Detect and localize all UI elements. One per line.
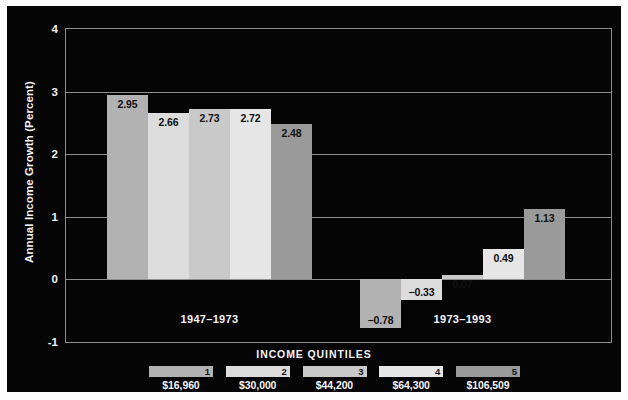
- bar-value-label: 2.66: [148, 116, 189, 128]
- bar-g1-q2: 2.66: [148, 113, 189, 280]
- legend-number: 5: [512, 367, 517, 377]
- gridline-0: [66, 279, 611, 280]
- y-tick-label-0: 0: [20, 273, 58, 285]
- legend-amount: $44,200: [301, 379, 369, 391]
- legend-swatch-1: 1: [149, 366, 213, 377]
- y-tick-label-4: 4: [20, 23, 58, 35]
- legend-number: 2: [281, 367, 286, 377]
- chart-page: Annual Income Growth (Percent) 43210-1 2…: [0, 0, 628, 400]
- bar-value-label: 2.48: [271, 127, 312, 139]
- legend-number: 3: [358, 367, 363, 377]
- y-tick-label-1: 1: [20, 211, 58, 223]
- legend-number: 1: [205, 367, 210, 377]
- legend-amount: $16,960: [147, 379, 215, 391]
- bar-value-label: −0.78: [360, 314, 401, 326]
- gridline-3: [66, 92, 611, 93]
- chart-plate: Annual Income Growth (Percent) 43210-1 2…: [7, 6, 621, 392]
- bar-g1-q3: 2.73: [189, 109, 230, 280]
- bar-value-label: −0.33: [401, 286, 442, 298]
- y-tick-label-3: 3: [20, 86, 58, 98]
- legend-item-1[interactable]: 1$16,960: [147, 366, 215, 391]
- y-tick-label-2: 2: [20, 148, 58, 160]
- legend-item-2[interactable]: 2$30,000: [224, 366, 292, 391]
- bar-value-label: 1.13: [524, 212, 565, 224]
- bar-g1-q4: 2.72: [230, 109, 271, 279]
- bar-value-label: 2.95: [107, 98, 148, 110]
- legend-item-3[interactable]: 3$44,200: [301, 366, 369, 391]
- legend-swatch-4: 4: [379, 366, 443, 377]
- bar-g2-q4: 0.49: [483, 249, 524, 280]
- legend-swatch-2: 2: [226, 366, 290, 377]
- group-caption-2: 1973–1993: [434, 313, 492, 325]
- legend-title: INCOME QUINTILES: [7, 348, 621, 360]
- bar-g2-q3: 0.07: [442, 275, 483, 279]
- plot-area: 43210-1 2.952.662.732.722.48−0.78−0.330.…: [65, 28, 612, 343]
- legend-item-4[interactable]: 4$64,300: [377, 366, 445, 391]
- legend-number: 4: [435, 367, 440, 377]
- group-caption-1: 1947–1973: [181, 313, 239, 325]
- bar-value-label: 2.72: [230, 112, 271, 124]
- bar-value-label: 2.73: [189, 112, 230, 124]
- bar-value-label: 0.07: [442, 278, 483, 290]
- bar-g2-q5: 1.13: [524, 209, 565, 280]
- legend: 1$16,9602$30,0003$44,2004$64,3005$106,50…: [147, 366, 522, 391]
- legend-swatch-5: 5: [456, 366, 520, 377]
- legend-item-5[interactable]: 5$106,509: [454, 366, 522, 391]
- bar-g1-q1: 2.95: [107, 95, 148, 280]
- legend-amount: $30,000: [224, 379, 292, 391]
- legend-amount: $106,509: [454, 379, 522, 391]
- y-tick-label--1: -1: [20, 336, 58, 348]
- legend-amount: $64,300: [377, 379, 445, 391]
- bar-value-label: 0.49: [483, 252, 524, 264]
- bar-g2-q1: −0.78: [360, 279, 401, 328]
- bar-g2-q2: −0.33: [401, 279, 442, 300]
- legend-swatch-3: 3: [303, 366, 367, 377]
- bar-g1-q5: 2.48: [271, 124, 312, 279]
